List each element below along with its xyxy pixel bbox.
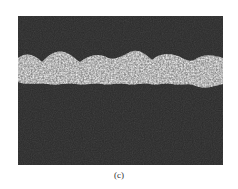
figure-label: (c) [0, 170, 238, 180]
micrograph-image [18, 16, 223, 165]
